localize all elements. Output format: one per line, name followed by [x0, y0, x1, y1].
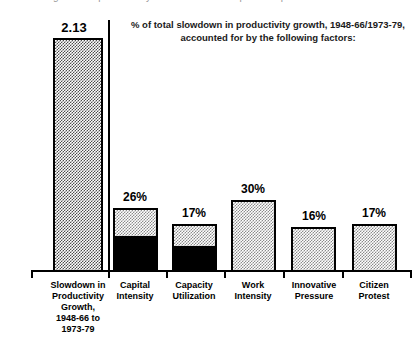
- category-label-line: Utilization: [163, 291, 225, 302]
- bar-slowdown-in-productivity-growth: [53, 38, 103, 272]
- caption-line-1: % of total slowdown in productivity grow…: [126, 19, 410, 32]
- vertical-divider: [108, 20, 110, 271]
- category-label-work-intensity: Work Intensity: [222, 280, 284, 302]
- category-label-line: Intensity: [222, 291, 284, 302]
- bar-citizen-protest: [352, 224, 397, 272]
- category-label-innovative-pressure: Innovative Pressure: [281, 280, 347, 302]
- value-label-capital-intensity: 26%: [104, 190, 166, 204]
- bar-work-intensity: [231, 200, 276, 272]
- x-axis-tick: [283, 272, 285, 278]
- category-label-line: Pressure: [281, 291, 347, 302]
- value-label-innovative-pressure: 16%: [281, 209, 347, 223]
- x-axis-tick: [166, 272, 168, 278]
- bar-innovative-pressure: [291, 227, 336, 272]
- category-label-capital-intensity: Capital Intensity: [104, 280, 166, 302]
- value-label-work-intensity: 30%: [222, 182, 284, 196]
- category-label-capacity-utilization: Capacity Utilization: [163, 280, 225, 302]
- bar-capacity-utilization: [172, 224, 217, 272]
- category-label-line: Capital: [104, 280, 166, 291]
- caption-line-2: accounted for by the following factors:: [126, 32, 410, 45]
- category-label-line: Innovative: [281, 280, 347, 291]
- bar-segment-lower-capital-intensity: [115, 236, 156, 270]
- bar-segment-upper-capacity-utilization: [174, 226, 215, 246]
- x-axis-tick: [342, 272, 344, 278]
- value-label-citizen-protest: 17%: [343, 206, 405, 220]
- value-label-capacity-utilization: 17%: [163, 206, 225, 220]
- bar-capital-intensity: [113, 208, 158, 272]
- category-label-line: Citizen: [343, 280, 405, 291]
- category-label-line: Work: [222, 280, 284, 291]
- category-label-line: 1948-66 to: [32, 313, 124, 324]
- x-axis-tick: [410, 272, 412, 278]
- cropped-body-text: growth in productivity was a natural and…: [0, 0, 418, 5]
- x-axis-tick: [31, 272, 33, 278]
- category-label-line: Growth,: [32, 302, 124, 313]
- category-label-citizen-protest: Citizen Protest: [343, 280, 405, 302]
- category-label-line: 1973-79: [32, 324, 124, 335]
- chart-caption: % of total slowdown in productivity grow…: [126, 19, 410, 44]
- x-axis-tick: [108, 272, 110, 278]
- chart-figure: growth in productivity was a natural and…: [0, 0, 418, 339]
- category-label-line: Capacity: [163, 280, 225, 291]
- bar-segment-upper-capital-intensity: [115, 210, 156, 236]
- category-label-line: Intensity: [104, 291, 166, 302]
- reference-bar-value-label: 2.13: [46, 20, 102, 35]
- category-label-line: Protest: [343, 291, 405, 302]
- x-axis-baseline: [31, 270, 412, 272]
- bar-segment-lower-capacity-utilization: [174, 246, 215, 270]
- x-axis-tick: [224, 272, 226, 278]
